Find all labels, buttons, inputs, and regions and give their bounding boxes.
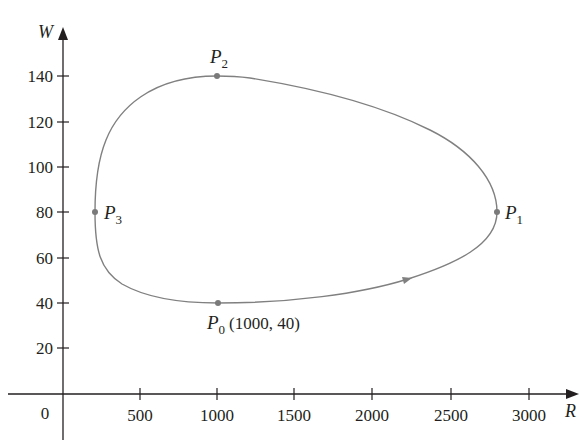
y-tick-labels: 20 40 60 80 100 120 140 W — [28, 22, 56, 358]
x-axis-label: R — [564, 401, 576, 421]
labeled-points — [92, 73, 500, 306]
y-tick-label: 80 — [36, 203, 53, 222]
axes — [8, 27, 579, 440]
x-tick-label: 2500 — [434, 406, 468, 425]
y-tick-label: 40 — [36, 294, 53, 313]
point-p1-marker — [494, 209, 500, 215]
y-axis-arrow-icon — [58, 27, 68, 40]
point-p3-label: P3 — [103, 202, 122, 227]
direction-arrow-icon — [402, 277, 412, 284]
y-axis-label: W — [38, 22, 55, 42]
y-tick-label: 100 — [28, 158, 54, 177]
trajectory-curve — [95, 76, 497, 303]
y-tick-label: 20 — [36, 339, 53, 358]
point-p0-marker — [215, 300, 221, 306]
point-p1-label: P1 — [504, 202, 523, 227]
x-tick-label: 500 — [127, 406, 153, 425]
x-tick-label: 1500 — [277, 406, 311, 425]
x-tick-label: 1000 — [200, 406, 234, 425]
x-tick-label: 2000 — [355, 406, 389, 425]
y-tick-label: 120 — [28, 113, 54, 132]
y-tick-label: 60 — [36, 249, 53, 268]
point-p2-marker — [214, 73, 220, 79]
x-axis-arrow-icon — [566, 389, 579, 399]
x-tick-labels: 500 1000 1500 2000 2500 3000 0 R — [41, 401, 576, 425]
point-p3-marker — [92, 209, 98, 215]
point-p0-label: P0(1000, 40) — [206, 312, 300, 337]
x-tick-label: 3000 — [512, 406, 546, 425]
y-tick-label: 140 — [28, 67, 54, 86]
point-p2-label: P2 — [209, 46, 228, 71]
origin-label: 0 — [41, 404, 50, 423]
phase-plot: 500 1000 1500 2000 2500 3000 0 R 20 40 6… — [0, 0, 587, 440]
